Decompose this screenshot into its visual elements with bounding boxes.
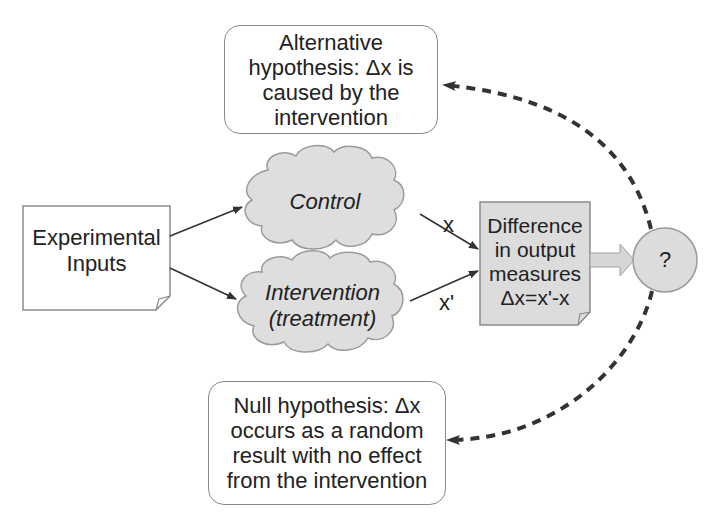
alternative-hypothesis-line-2: hypothesis: Δx is <box>248 55 413 80</box>
experimental-inputs-line-2: Inputs <box>67 251 127 277</box>
null-hypothesis-box: Null hypothesis: Δx occurs as a random r… <box>208 381 446 505</box>
difference-line-3: measures <box>489 262 581 286</box>
experimental-inputs-line-1: Experimental <box>32 225 160 251</box>
decision-label: ? <box>659 247 671 273</box>
edge-label-x: x <box>443 212 454 238</box>
block-arrow <box>590 244 634 276</box>
alternative-hypothesis-box: Alternative hypothesis: Δx is caused by … <box>224 25 438 134</box>
intervention-line-1: Intervention <box>265 280 380 306</box>
difference-box: Difference in output measures Δx=x'-x <box>480 203 590 321</box>
control-label: Control <box>290 189 361 215</box>
alternative-hypothesis-line-3: caused by the <box>263 80 400 105</box>
difference-line-1: Difference <box>487 214 582 238</box>
intervention-line-2: (treatment) <box>269 306 377 332</box>
difference-line-4: Δx=x'-x <box>501 286 570 310</box>
alternative-hypothesis-line-4: intervention <box>274 105 388 130</box>
edge-label-x-prime: x' <box>439 290 454 316</box>
null-hypothesis-line-4: from the intervention <box>227 468 428 493</box>
alternative-hypothesis-line-1: Alternative <box>279 30 383 55</box>
arrow-inputs-to-intervention <box>170 268 236 299</box>
intervention-cloud: Intervention (treatment) <box>240 275 405 337</box>
experimental-inputs-box: Experimental Inputs <box>23 206 170 296</box>
difference-line-2: in output <box>495 238 576 262</box>
control-cloud: Control <box>250 180 400 224</box>
arrow-inputs-to-control <box>170 207 242 236</box>
decision-circle: ? <box>633 228 697 292</box>
null-hypothesis-line-1: Null hypothesis: Δx <box>233 393 420 418</box>
null-hypothesis-line-2: occurs as a random <box>230 418 423 443</box>
null-hypothesis-line-3: result with no effect <box>232 443 421 468</box>
